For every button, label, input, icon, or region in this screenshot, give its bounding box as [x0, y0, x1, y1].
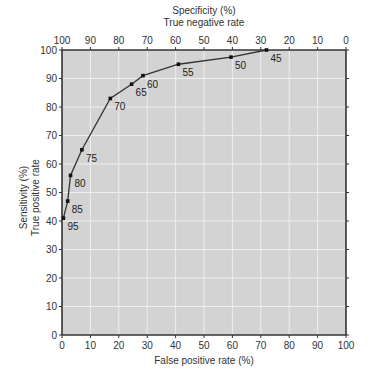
- y-tick-label: 10: [46, 301, 58, 312]
- threshold-label: 70: [114, 101, 126, 112]
- x-tick-label: 40: [170, 340, 182, 351]
- y-tick-label: 100: [40, 45, 57, 56]
- top-tick-label: 50: [198, 35, 210, 46]
- x-tick-label: 0: [59, 340, 65, 351]
- x-tick-label: 10: [85, 340, 97, 351]
- y-axis-title-sensitivity: Sensitivity (%): [18, 166, 29, 229]
- roc-data-point: [62, 216, 66, 220]
- y-tick-label: 30: [46, 244, 58, 255]
- y-axis-title-tpr: True positive rate: [30, 159, 41, 236]
- x-tick-label: 50: [198, 340, 210, 351]
- top-axis-title-tnr: True negative rate: [164, 17, 245, 28]
- y-tick-label: 70: [46, 130, 58, 141]
- top-tick-label: 40: [227, 35, 239, 46]
- threshold-label: 55: [182, 67, 194, 78]
- roc-data-point: [66, 199, 70, 203]
- roc-data-point: [130, 82, 134, 86]
- x-tick-label: 20: [113, 340, 125, 351]
- threshold-label: 85: [72, 204, 84, 215]
- x-tick-label: 80: [284, 340, 296, 351]
- roc-data-point: [69, 174, 73, 178]
- top-tick-label: 60: [170, 35, 182, 46]
- threshold-label: 95: [67, 221, 79, 232]
- x-tick-label: 30: [142, 340, 154, 351]
- threshold-label: 50: [235, 60, 247, 71]
- threshold-label: 75: [86, 153, 98, 164]
- top-tick-label: 90: [85, 35, 97, 46]
- top-axis-title-specificity: Specificity (%): [172, 5, 235, 16]
- y-tick-label: 50: [46, 187, 58, 198]
- threshold-label: 45: [270, 53, 282, 64]
- roc-chart: 0102030405060708090100100908070605040302…: [0, 0, 370, 374]
- x-tick-label: 100: [338, 340, 355, 351]
- threshold-label: 60: [147, 79, 159, 90]
- roc-data-point: [108, 97, 112, 101]
- threshold-label: 65: [136, 87, 148, 98]
- y-tick-label: 20: [46, 273, 58, 284]
- y-tick-label: 0: [51, 330, 57, 341]
- top-tick-label: 10: [312, 35, 324, 46]
- top-tick-label: 0: [343, 35, 349, 46]
- roc-chart-svg: 0102030405060708090100100908070605040302…: [0, 0, 370, 374]
- x-tick-label: 60: [227, 340, 239, 351]
- threshold-label: 80: [75, 178, 87, 189]
- top-tick-label: 20: [284, 35, 296, 46]
- x-tick-label: 90: [312, 340, 324, 351]
- roc-data-point: [80, 148, 84, 152]
- roc-data-point: [141, 74, 145, 78]
- y-tick-label: 40: [46, 216, 58, 227]
- y-tick-label: 90: [46, 73, 58, 84]
- x-axis-title: False positive rate (%): [154, 355, 253, 366]
- roc-data-point: [177, 62, 181, 66]
- y-tick-label: 80: [46, 102, 58, 113]
- roc-data-point: [229, 55, 233, 59]
- top-tick-label: 30: [255, 35, 267, 46]
- x-tick-label: 70: [255, 340, 267, 351]
- top-tick-label: 70: [142, 35, 154, 46]
- roc-data-point: [265, 48, 269, 52]
- y-tick-label: 60: [46, 159, 58, 170]
- top-tick-label: 80: [113, 35, 125, 46]
